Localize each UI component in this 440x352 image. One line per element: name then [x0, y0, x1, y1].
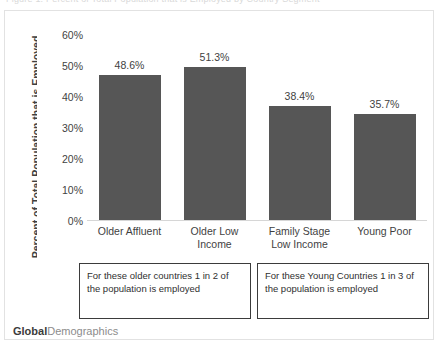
bar-slot-family-stage-low-income: 38.4% — [257, 41, 342, 221]
bar-label-family-stage-low-income: 38.4% — [285, 90, 315, 102]
chart-panel: Percent of Total Population that is Empl… — [4, 10, 434, 340]
bar-older-low-income[interactable]: 51.3% — [184, 67, 246, 221]
y-tick-30: 30% — [62, 122, 83, 134]
callout-young-countries: For these Young Countries 1 in 3 of the … — [257, 263, 429, 319]
bar-label-older-low-income: 51.3% — [200, 51, 230, 63]
annotation-callouts: For these older countries 1 in 2 of the … — [5, 263, 435, 319]
bar-label-young-poor: 35.7% — [370, 98, 400, 110]
y-tick-10: 10% — [62, 184, 83, 196]
clipped-caption-strip: Figure 1: Percent of Total Population th… — [0, 0, 440, 9]
y-tick-50: 50% — [62, 60, 83, 72]
bar-family-stage-low-income[interactable]: 38.4% — [269, 106, 331, 221]
x-label-older-low-income: Older Low Income — [172, 225, 257, 251]
bar-older-affluent[interactable]: 48.6% — [99, 75, 161, 221]
bar-slot-young-poor: 35.7% — [342, 41, 427, 221]
y-axis-title: Percent of Total Population that is Empl… — [11, 29, 37, 281]
bar-label-older-affluent: 48.6% — [115, 59, 145, 71]
x-label-older-affluent: Older Affluent — [87, 225, 172, 251]
plot-area: 48.6% 51.3% 38.4% 35.7% — [87, 41, 427, 221]
y-axis-tick-labels: 60% 50% 40% 30% 20% 10% 0% — [43, 35, 83, 221]
x-axis-category-labels: Older Affluent Older Low Income Family S… — [87, 225, 427, 251]
y-tick-60: 60% — [62, 29, 83, 41]
clipped-caption-text: Figure 1: Percent of Total Population th… — [6, 0, 320, 4]
bar-slot-older-low-income: 51.3% — [172, 41, 257, 221]
y-tick-20: 20% — [62, 153, 83, 165]
bar-young-poor[interactable]: 35.7% — [354, 114, 416, 221]
y-axis-title-text: Percent of Total Population that is Empl… — [30, 29, 37, 272]
brand-name-strong: Global — [13, 325, 47, 337]
x-label-family-stage-low-income: Family Stage Low Income — [257, 225, 342, 251]
brand-logo: GlobalDemographics — [13, 325, 118, 337]
y-tick-40: 40% — [62, 91, 83, 103]
bar-series: 48.6% 51.3% 38.4% 35.7% — [87, 41, 427, 221]
x-axis-line — [87, 220, 427, 221]
x-label-young-poor: Young Poor — [342, 225, 427, 251]
bar-slot-older-affluent: 48.6% — [87, 41, 172, 221]
callout-older-countries: For these older countries 1 in 2 of the … — [79, 263, 251, 319]
brand-name-light: Demographics — [47, 325, 118, 337]
y-tick-0: 0% — [68, 215, 83, 227]
